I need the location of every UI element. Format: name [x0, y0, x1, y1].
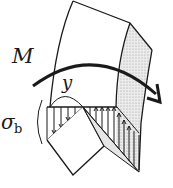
cross-section-diamond — [47, 107, 104, 175]
beam-bending-diagram: M y σ b — [0, 0, 173, 188]
moment-label: M — [11, 44, 34, 68]
distance-arc — [50, 97, 83, 108]
distance-label: y — [61, 72, 73, 93]
stress-bracket — [38, 100, 43, 144]
stress-subscript: b — [14, 121, 22, 136]
